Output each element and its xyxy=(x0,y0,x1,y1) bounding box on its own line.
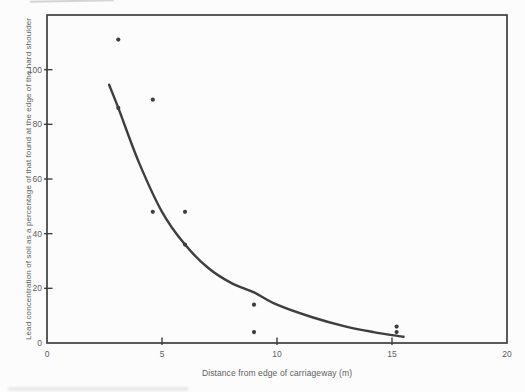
x-tick-label: 15 xyxy=(387,349,397,359)
data-point xyxy=(183,210,187,214)
data-point xyxy=(116,38,120,42)
lead-concentration-figure: 05101520020406080100 Lead concentration … xyxy=(0,0,525,392)
y-tick-label: 60 xyxy=(33,174,43,184)
data-point xyxy=(395,325,399,329)
data-point xyxy=(252,330,256,334)
data-point xyxy=(183,243,187,247)
y-axis-title: Lead concentration of soil as a percenta… xyxy=(24,1,33,357)
y-tick-label: 40 xyxy=(33,229,43,239)
data-point xyxy=(151,210,155,214)
x-tick-label: 10 xyxy=(272,349,282,359)
data-point xyxy=(116,106,120,110)
plot-area: 05101520020406080100 xyxy=(0,0,525,392)
plot-frame xyxy=(47,15,507,343)
data-point xyxy=(151,98,155,102)
y-tick-label: 0 xyxy=(37,338,42,348)
x-tick-label: 0 xyxy=(45,349,50,359)
x-tick-label: 5 xyxy=(160,349,165,359)
data-point xyxy=(252,303,256,307)
y-tick-label: 80 xyxy=(33,119,43,129)
x-axis-title: Distance from edge of carriageway (m) xyxy=(47,368,507,378)
x-tick-label: 20 xyxy=(502,349,512,359)
data-point xyxy=(395,330,399,334)
y-tick-label: 20 xyxy=(33,283,43,293)
